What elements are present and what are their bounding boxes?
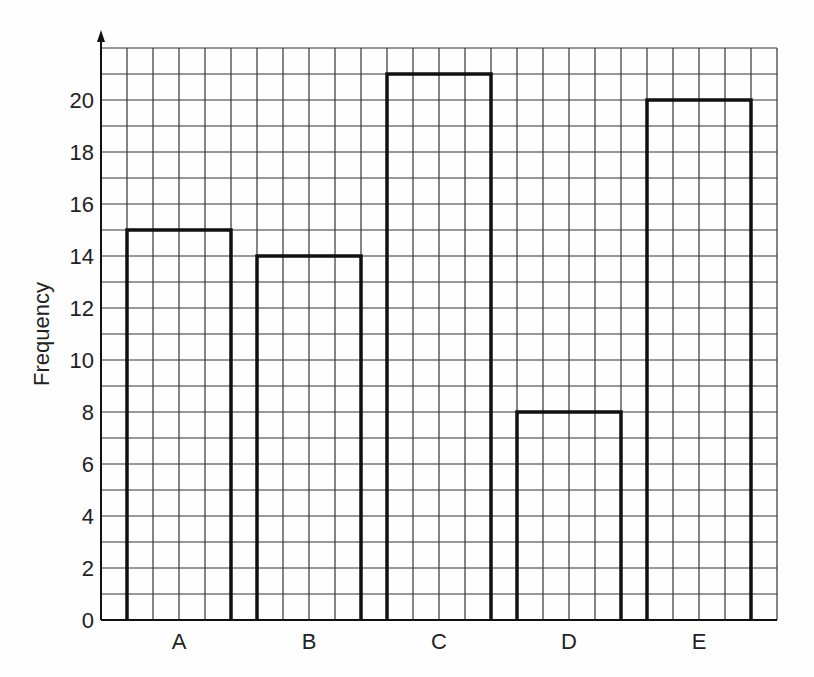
x-tick-c: C xyxy=(431,629,447,654)
y-tick-12: 12 xyxy=(70,296,94,321)
y-axis-arrow-icon xyxy=(97,30,105,42)
y-tick-6: 6 xyxy=(82,452,94,477)
x-tick-e: E xyxy=(692,629,707,654)
x-tick-labels: ABCDE xyxy=(172,629,707,654)
y-tick-18: 18 xyxy=(70,140,94,165)
y-tick-10: 10 xyxy=(70,348,94,373)
y-tick-16: 16 xyxy=(70,192,94,217)
y-tick-20: 20 xyxy=(70,88,94,113)
x-tick-d: D xyxy=(561,629,577,654)
y-axis-label: Frequency xyxy=(29,282,55,386)
x-tick-a: A xyxy=(172,629,187,654)
y-tick-2: 2 xyxy=(82,556,94,581)
grid-lines xyxy=(101,48,777,620)
y-tick-4: 4 xyxy=(82,504,94,529)
bar-chart: 02468101214161820 ABCDE xyxy=(0,0,814,677)
y-tick-0: 0 xyxy=(82,608,94,633)
y-tick-14: 14 xyxy=(70,244,94,269)
y-tick-8: 8 xyxy=(82,400,94,425)
x-tick-b: B xyxy=(302,629,317,654)
y-tick-labels: 02468101214161820 xyxy=(70,88,94,633)
axes xyxy=(97,30,777,620)
